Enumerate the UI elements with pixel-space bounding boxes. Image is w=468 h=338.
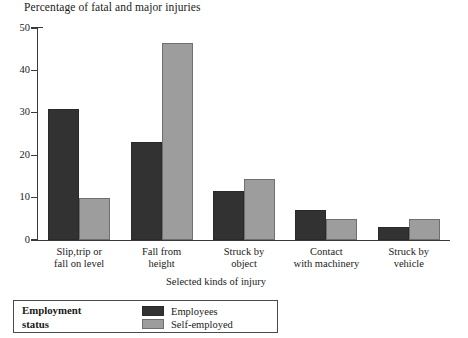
category-label-5-line2: vehicle [394, 258, 424, 269]
self-employed-swatch-icon [142, 319, 164, 329]
bar-self-employed-group-4 [326, 219, 357, 240]
bar-employees-group-1 [48, 109, 79, 240]
category-label-5-line1: Struck by [389, 246, 430, 257]
x-axis-caption: Selected kinds of injury [166, 276, 266, 287]
category-label-4-line1: Contact [310, 246, 343, 257]
category-label-3-line1: Struck by [224, 246, 265, 257]
bar-employees-group-5 [378, 227, 409, 240]
bars-layer [0, 0, 468, 338]
employees-swatch-icon [142, 306, 164, 316]
bar-employees-group-4 [295, 210, 326, 240]
bar-employees-group-3 [213, 191, 244, 240]
category-label-3-line2: object [231, 258, 257, 269]
bar-employees-group-2 [131, 142, 162, 240]
legend: Employment status Employees Self-employe… [13, 300, 278, 333]
category-label-2-line1: Fall from [142, 246, 181, 257]
category-label-1-line2: fall on level [54, 258, 104, 269]
bar-self-employed-group-2 [162, 43, 193, 240]
category-label-2-line2: height [148, 258, 174, 269]
category-label-5: Struck byvehicle [354, 246, 464, 271]
legend-title: Employment status [22, 304, 132, 331]
plot-area: 01020304050 Slip,trip orfall on levelFal… [0, 0, 468, 338]
bar-self-employed-group-1 [79, 198, 110, 240]
bar-self-employed-group-3 [244, 179, 275, 240]
bar-chart: Percentage of fatal and major injuries 0… [0, 0, 468, 338]
legend-title-line2: status [22, 318, 49, 330]
category-label-4-line2: with machinery [294, 258, 360, 269]
category-label-1-line1: Slip,trip or [56, 246, 102, 257]
legend-label-employees: Employees [171, 305, 218, 318]
legend-title-line1: Employment [22, 304, 81, 316]
bar-self-employed-group-5 [409, 219, 440, 240]
legend-label-self-employed: Self-employed [171, 318, 233, 331]
